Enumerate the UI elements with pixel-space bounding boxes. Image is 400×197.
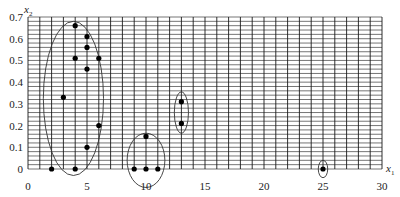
y-tick-label: 0.2 — [9, 120, 23, 132]
data-point — [143, 134, 148, 139]
x-tick-label: 25 — [318, 180, 330, 192]
data-point — [96, 123, 101, 128]
data-point — [84, 45, 89, 50]
data-point — [73, 23, 78, 28]
y-tick-label: 0.3 — [9, 98, 23, 110]
data-points — [49, 23, 326, 172]
grid-lines — [28, 17, 382, 169]
data-point — [84, 34, 89, 39]
data-point — [132, 166, 137, 171]
data-point — [49, 166, 54, 171]
data-point — [179, 99, 184, 104]
x-axis-label: x1 — [385, 162, 395, 177]
data-point — [155, 166, 160, 171]
y-tick-label: 0.7 — [9, 11, 23, 23]
y-tick-label: 0.6 — [9, 33, 23, 45]
data-point — [84, 67, 89, 72]
x-tick-label: 30 — [377, 180, 389, 192]
x-tick-label: 20 — [259, 180, 271, 192]
cluster-ellipse — [43, 21, 103, 175]
data-point — [320, 166, 325, 171]
data-point — [143, 166, 148, 171]
y-tick-label: 0 — [18, 163, 24, 175]
cluster-scatter-chart: 051015202530 00.10.20.30.40.50.60.7 x1 x… — [0, 0, 400, 197]
data-point — [96, 56, 101, 61]
y-tick-label: 0.1 — [9, 141, 23, 153]
data-point — [73, 56, 78, 61]
y-tick-label: 0.5 — [9, 54, 23, 66]
data-point — [73, 166, 78, 171]
x-axis-ticks: 051015202530 — [25, 180, 388, 192]
data-point — [84, 145, 89, 150]
data-point — [179, 121, 184, 126]
y-axis-label: x2 — [23, 3, 33, 18]
y-tick-label: 0.4 — [9, 76, 23, 88]
data-point — [61, 95, 66, 100]
x-tick-label: 0 — [25, 180, 31, 192]
x-tick-label: 10 — [141, 180, 153, 192]
x-tick-label: 15 — [200, 180, 212, 192]
x-tick-label: 5 — [84, 180, 90, 192]
y-axis-ticks: 00.10.20.30.40.50.60.7 — [9, 11, 23, 175]
